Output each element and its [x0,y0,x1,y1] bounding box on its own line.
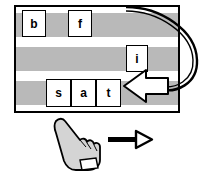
tile-s[interactable]: s [46,79,71,107]
diagram-canvas: b f i s a t [0,0,208,171]
tile-i[interactable]: i [126,45,148,72]
tile-b[interactable]: b [22,10,46,37]
row-middle: i [16,47,178,71]
tile-board: b f i s a t [14,5,180,113]
tile-f[interactable]: f [68,10,92,37]
row-top: b f [16,13,178,37]
tile-a[interactable]: a [71,79,96,107]
row-bottom: s a t [16,81,178,105]
tile-t[interactable]: t [96,79,121,107]
pointing-hand-icon [55,119,101,170]
right-arrow-icon [108,131,152,148]
